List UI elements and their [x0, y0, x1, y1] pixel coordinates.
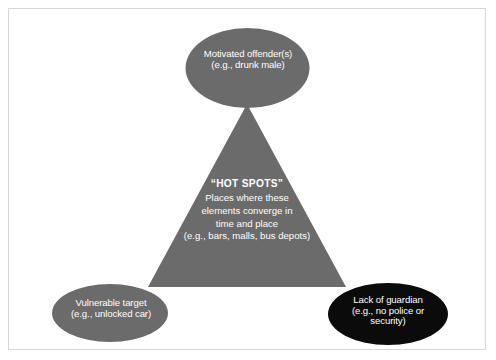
hot-spots-line: time and place: [148, 218, 346, 231]
hot-spots-line: elements converge in: [148, 205, 346, 218]
node-label-line: (e.g., drunk male): [180, 60, 316, 71]
hot-spots-label: “HOT SPOTS” Places where these elements …: [148, 177, 346, 243]
hot-spots-line: (e.g., bars, malls, bus depots): [148, 230, 346, 243]
node-label-line: (e.g., unlocked car): [50, 309, 172, 320]
node-label-lack-of-guardian: Lack of guardian (e.g., no police or sec…: [327, 295, 449, 327]
node-label-line: security): [327, 316, 449, 327]
hot-spots-line: Places where these: [148, 192, 346, 205]
hot-spots-heading: “HOT SPOTS”: [148, 177, 346, 190]
node-label-motivated-offender: Motivated offender(s) (e.g., drunk male): [180, 49, 316, 70]
crime-triangle-diagram: Motivated offender(s) (e.g., drunk male)…: [0, 0, 496, 360]
node-label-vulnerable-target: Vulnerable target (e.g., unlocked car): [50, 298, 172, 319]
